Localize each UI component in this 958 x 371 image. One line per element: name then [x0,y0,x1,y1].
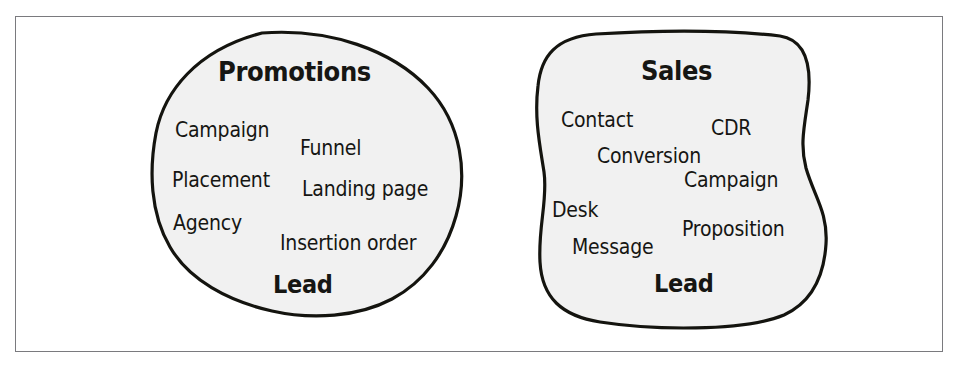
sales-term-campaign: Campaign [684,170,778,191]
sales-term-message: Message [572,237,653,258]
sales-term-conversion: Conversion [597,146,701,167]
promotions-term-agency: Agency [173,213,242,234]
sales-term-proposition: Proposition [682,219,785,240]
promotions-term-placement: Placement [172,170,270,191]
promotions-term-insertion-order: Insertion order [280,233,416,254]
promotions-term-funnel: Funnel [300,138,361,159]
promotions-term-campaign: Campaign [175,120,269,141]
sales-term-contact: Contact [561,110,633,131]
sales-term-lead: Lead [654,271,714,296]
promotions-term-landing-page: Landing page [302,179,428,200]
diagram-root: Promotions Campaign Funnel Placement Lan… [0,0,958,371]
cluster-title-promotions: Promotions [218,58,371,85]
cluster-title-sales: Sales [641,57,712,84]
diagram-frame [15,16,943,352]
sales-term-cdr: CDR [711,118,751,139]
sales-term-desk: Desk [552,200,598,221]
promotions-term-lead: Lead [273,272,333,297]
